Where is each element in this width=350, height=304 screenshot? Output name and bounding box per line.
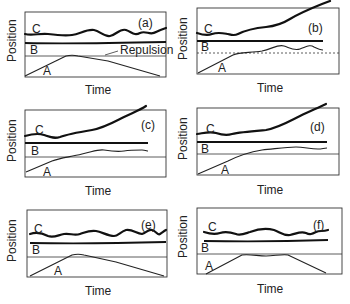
label-c: C [204,22,213,36]
label-c: C [35,123,44,137]
panel-tag: (c) [141,118,155,132]
panel-e: C B A (e) Time Position [5,210,167,298]
label-b: B [201,40,209,54]
repulsion-leader [105,51,118,55]
panel-tag: (d) [310,120,325,134]
curve-a [198,147,327,174]
y-axis-label: Position [176,17,190,60]
y-axis-label: Position [5,119,19,162]
panel-c: C B A (c) Time Position [5,106,166,198]
label-c: C [208,220,217,234]
x-axis-label: Time [85,184,112,198]
label-a: A [221,163,229,177]
curve-c [204,229,328,235]
y-axis-label: Position [176,117,190,160]
x-axis-label: Time [257,282,284,296]
repulsion-label: Repulsion [120,43,173,57]
curve-a [198,46,323,73]
panel-b: C B A (b) Time Position [176,1,339,95]
curve-b [204,240,328,241]
label-b: B [32,243,40,257]
curve-b [30,242,166,243]
curve-a [30,254,164,276]
figure-canvas: C B A (a) Repulsion Time Position C B A … [0,0,350,304]
y-axis-label: Position [176,215,190,258]
x-axis-label: Time [257,183,284,197]
label-b: B [30,43,38,57]
label-b: B [201,241,209,255]
panel-tag: (b) [308,21,323,35]
x-axis-label: Time [85,284,112,298]
x-axis-label: Time [85,83,112,97]
curve-a [206,255,326,274]
label-b: B [201,142,209,156]
label-a: A [43,165,51,179]
label-c: C [34,222,43,236]
panel-a: C B A (a) Repulsion Time Position [5,12,173,97]
label-b: B [31,144,39,158]
y-axis-label: Position [5,219,19,262]
label-a: A [43,64,51,78]
label-c: C [206,122,215,136]
x-axis-label: Time [257,81,284,95]
label-a: A [218,61,226,75]
label-c: C [32,22,41,36]
panel-tag: (f) [313,218,324,232]
panel-tag: (e) [141,218,156,232]
panel-f: C B A (f) Time Position [176,208,342,296]
panel-tag: (a) [138,16,153,30]
label-a: A [205,259,213,273]
panel-d: C B A (d) Time Position [176,104,339,197]
y-axis-label: Position [5,19,19,62]
curve-c [197,104,326,135]
label-a: A [54,264,62,278]
